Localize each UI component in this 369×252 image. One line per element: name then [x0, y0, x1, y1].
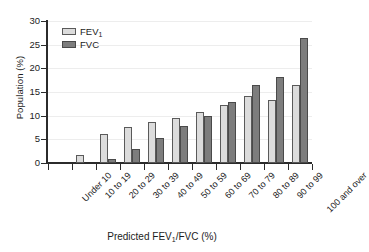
gridline [48, 92, 312, 93]
y-tick-mark [41, 68, 47, 69]
bar-fvc-2 [108, 159, 116, 163]
bar-fvc-6 [204, 116, 212, 163]
y-tick-mark [41, 92, 47, 93]
bar-fvc-5 [180, 126, 188, 163]
bar-fev1-8 [244, 96, 252, 163]
x-tick-mark [144, 164, 145, 170]
legend-label-fev1: FEV1 [80, 26, 102, 37]
bar-fvc-10 [300, 38, 308, 163]
y-tick-label: 15 [4, 87, 40, 97]
bar-fvc-9 [276, 77, 284, 163]
y-tick-mark [41, 21, 47, 22]
bar-fev1-7 [220, 105, 228, 163]
bar-fvc-7 [228, 102, 236, 163]
x-tick-mark [264, 164, 265, 170]
legend-label-fvc: FVC [80, 39, 99, 50]
y-tick-label: 30 [4, 16, 40, 26]
gridline [48, 21, 312, 22]
bar-fvc-3 [132, 149, 140, 163]
y-tick-mark [41, 116, 47, 117]
gridline [48, 68, 312, 69]
x-tick-mark [96, 164, 97, 170]
x-tick-mark [72, 164, 73, 170]
x-tick-mark [48, 164, 49, 170]
legend-item-fev1: FEV1 [62, 26, 102, 37]
bar-fev1-1 [76, 155, 84, 163]
x-tick-label-9: 90 to 99 [296, 171, 325, 200]
bar-fev1-6 [196, 112, 204, 163]
x-axis-title: Predicted FEV1/FVC (%) [0, 231, 324, 242]
y-tick-label: 25 [4, 40, 40, 50]
y-tick-label: 20 [4, 63, 40, 73]
bar-fev1-2 [100, 134, 108, 163]
y-tick-label: 10 [4, 111, 40, 121]
bar-fev1-10 [292, 85, 300, 163]
bar-fev1-5 [172, 118, 180, 163]
bar-fev1-4 [148, 122, 156, 163]
legend-swatch-fvc-icon [62, 41, 76, 48]
legend-swatch-fev1-icon [62, 28, 76, 35]
x-tick-mark [312, 164, 313, 170]
x-tick-mark [192, 164, 193, 170]
x-tick-mark [168, 164, 169, 170]
x-tick-mark [120, 164, 121, 170]
bar-fvc-4 [156, 138, 164, 163]
bar-fvc-8 [252, 85, 260, 163]
y-tick-label: 5 [4, 134, 40, 144]
x-tick-mark [240, 164, 241, 170]
y-axis-tick-labels: 051015202530 [0, 0, 40, 252]
bar-fev1-3 [124, 127, 132, 163]
y-tick-label: 0 [4, 158, 40, 168]
bar-fev1-9 [268, 100, 276, 163]
y-tick-mark [41, 139, 47, 140]
legend-item-fvc: FVC [62, 39, 102, 50]
x-tick-mark [216, 164, 217, 170]
chart-legend: FEV1 FVC [62, 26, 102, 52]
y-tick-mark [41, 163, 47, 164]
x-tick-mark [288, 164, 289, 170]
x-tick-label-10: 100 and over [325, 171, 369, 215]
y-tick-mark [41, 45, 47, 46]
